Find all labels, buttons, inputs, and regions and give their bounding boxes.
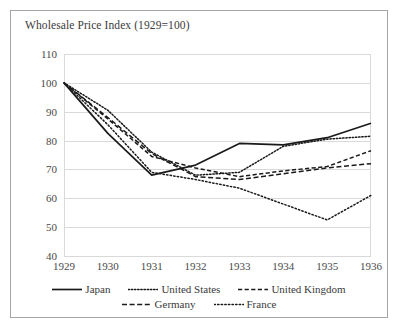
legend-item-germany[interactable]: Germany [122, 298, 196, 310]
legend-swatch-united-states [128, 285, 158, 294]
gridline [64, 256, 371, 257]
x-axis-tick-label: 1936 [360, 260, 382, 272]
series-lines [64, 54, 371, 256]
x-axis-tick-label: 1930 [97, 260, 119, 272]
y-axis-tick-label: 100 [27, 77, 57, 89]
series-line-united-states [64, 83, 371, 175]
legend-swatch-japan [52, 285, 82, 294]
legend-item-united-states[interactable]: United States [128, 283, 220, 295]
legend-row: JapanUnited StatesUnited Kingdom [52, 283, 345, 295]
x-axis-tick-label: 1932 [185, 260, 207, 272]
legend-label-united-states: United States [161, 283, 220, 295]
plot-area [64, 54, 371, 256]
series-line-germany [64, 83, 371, 180]
chart-title: Wholesale Price Index (1929=100) [25, 19, 190, 31]
x-axis-tick-label: 1933 [228, 260, 250, 272]
x-axis-tick-label: 1934 [272, 260, 294, 272]
x-axis-tick-label: 1931 [141, 260, 163, 272]
y-axis-tick-label: 90 [27, 106, 57, 118]
y-axis-tick-label: 60 [27, 192, 57, 204]
series-line-united-kingdom [64, 83, 371, 177]
x-axis-tick-label: 1929 [53, 260, 75, 272]
chart-legend: JapanUnited StatesUnited KingdomGermanyF… [11, 283, 387, 310]
y-axis-tick-label: 50 [27, 221, 57, 233]
legend-label-united-kingdom: United Kingdom [271, 283, 345, 295]
chart-figure: Wholesale Price Index (1929=100) 4050607… [10, 10, 388, 318]
x-axis-tick-label: 1935 [316, 260, 338, 272]
series-line-japan [64, 83, 371, 175]
series-line-france [64, 83, 371, 220]
legend-item-france[interactable]: France [214, 298, 277, 310]
y-axis-tick-label: 70 [27, 163, 57, 175]
legend-row: GermanyFrance [122, 298, 277, 310]
x-axis: 19291930193119321933193419351936 [64, 260, 371, 278]
y-axis-tick-label: 80 [27, 135, 57, 147]
legend-swatch-france [214, 300, 244, 309]
legend-label-france: France [247, 298, 277, 310]
legend-swatch-germany [122, 300, 152, 309]
y-axis: 405060708090100110 [25, 54, 57, 256]
legend-item-united-kingdom[interactable]: United Kingdom [238, 283, 345, 295]
legend-label-germany: Germany [155, 298, 196, 310]
legend-item-japan[interactable]: Japan [52, 283, 110, 295]
legend-label-japan: Japan [85, 283, 110, 295]
legend-swatch-united-kingdom [238, 285, 268, 294]
y-axis-tick-label: 110 [27, 48, 57, 60]
